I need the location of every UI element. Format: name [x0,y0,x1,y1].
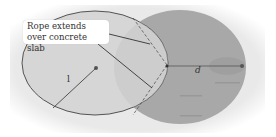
texture-mark [215,82,240,84]
callout-line-1: Rope extends [27,21,105,32]
callout-line-2: over concrete slab [27,32,105,54]
intersection-point [166,65,169,68]
texture-mark [180,115,202,117]
diagram-figure: Rope extends over concrete slab l d [0,0,276,137]
stake-point [240,64,244,68]
distance-label: d [195,65,201,75]
callout-box: Rope extends over concrete slab [23,20,109,44]
radius-label: l [67,74,70,84]
texture-mark [180,95,202,97]
